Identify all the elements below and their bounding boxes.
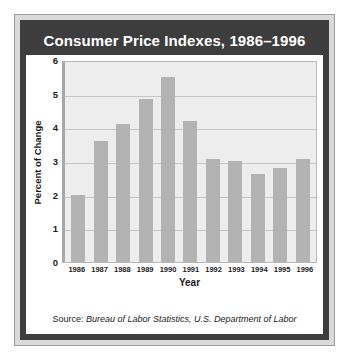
source-note: Source: Bureau of Labor Statistics, U.S.… [26,314,323,324]
bar [94,141,108,262]
y-axis-ticks: 0123456 [46,61,60,263]
page-title: Consumer Price Indexes, 1986–1996 [44,32,306,49]
x-axis-tick: 1988 [114,265,128,274]
x-axis-tick: 1987 [91,265,105,274]
source-label: Source: [52,314,86,324]
y-axis-tick: 3 [53,157,58,167]
bar [251,174,265,262]
chart-figure: Consumer Price Indexes, 1986–1996 Percen… [14,14,335,346]
y-axis-tick: 6 [53,56,58,66]
bar-series [65,62,316,262]
bar [273,168,287,262]
y-axis-tick: 5 [53,90,58,100]
y-axis-tick: 2 [53,191,58,201]
x-axis-tick: 1995 [274,265,288,274]
chart-frame: Consumer Price Indexes, 1986–1996 Percen… [20,20,329,340]
bar [116,124,130,262]
bar [296,159,310,262]
x-axis-tick: 1990 [160,265,174,274]
y-axis-label-text: Percent of Change [33,120,44,204]
bar [228,161,242,262]
y-axis-tick: 0 [53,258,58,268]
y-axis-label: Percent of Change [30,61,46,263]
bar [161,77,175,262]
x-axis-tick: 1992 [205,265,219,274]
bar [183,121,197,262]
plot-block: Percent of Change 0123456 19861987198819… [32,61,317,275]
x-axis-tick: 1996 [297,265,311,274]
chart-title-band: Consumer Price Indexes, 1986–1996 [26,26,323,55]
x-axis-tick: 1994 [251,265,265,274]
chart-body: Percent of Change 0123456 19861987198819… [26,55,323,334]
x-axis-tick: 1993 [228,265,242,274]
bar [139,99,153,262]
plot-area [62,61,317,263]
y-axis-tick: 1 [53,225,58,235]
source-text: Bureau of Labor Statistics, U.S. Departm… [86,314,297,324]
x-axis-tick: 1986 [68,265,82,274]
x-axis-tick: 1991 [182,265,196,274]
x-axis-label: Year [62,277,317,288]
x-axis-tick: 1989 [137,265,151,274]
y-axis-tick: 4 [53,124,58,134]
bar [71,195,85,262]
bar [206,159,220,262]
